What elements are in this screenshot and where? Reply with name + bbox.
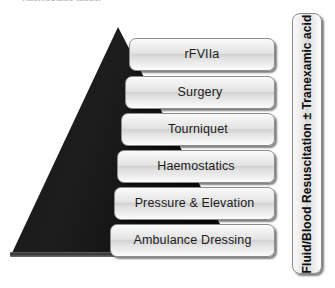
ladder-step-label: Surgery	[178, 86, 223, 99]
side-panel-label: Fluid/Blood Resuscitation ± Tranexamic a…	[301, 14, 313, 273]
ladder-step-label: Haemostatics	[157, 160, 235, 173]
ladder-step-label: rFVIIa	[185, 48, 220, 61]
ladder-step-ambulance-dressing[interactable]: Ambulance Dressing	[110, 224, 275, 257]
ladder-step-tourniquet[interactable]: Tourniquet	[121, 113, 275, 146]
ladder-step-haemostatics[interactable]: Haemostatics	[117, 150, 275, 183]
side-panel-fluid-resuscitation[interactable]: Fluid/Blood Resuscitation ± Tranexamic a…	[292, 13, 322, 274]
ladder-steps-list: rFVIIa Surgery Tourniquet Haemostatics P…	[0, 0, 335, 288]
ladder-step-label: Pressure & Elevation	[135, 197, 255, 210]
ladder-step-surgery[interactable]: Surgery	[125, 76, 275, 109]
ladder-step-pressure-elevation[interactable]: Pressure & Elevation	[114, 187, 275, 220]
ladder-step-rfviia[interactable]: rFVIIa	[129, 38, 275, 71]
ladder-step-label: Tourniquet	[168, 123, 228, 136]
haemostatic-ladder-figure: Haemostatic ladder rFVIIa Surgery	[0, 0, 335, 288]
ladder-step-label: Ambulance Dressing	[133, 234, 251, 247]
